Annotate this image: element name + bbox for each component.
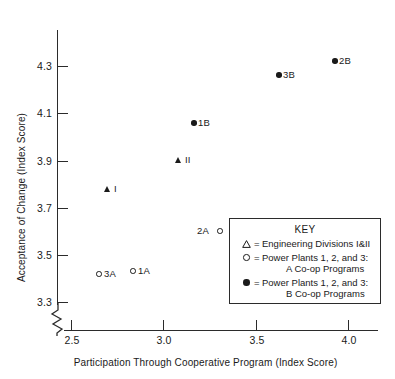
x-tick-label-4.0: 4.0 [334, 334, 364, 346]
x-tick-4.0 [348, 320, 349, 330]
marker-filled-circle [276, 72, 282, 78]
data-point-1A: 1A [130, 268, 136, 274]
filled-circle-icon [239, 277, 254, 288]
marker-open-circle [96, 271, 102, 277]
data-point-1B: 1B [191, 120, 197, 126]
data-point-2B: 2B [332, 58, 338, 64]
key-entry-text: Power Plants 1, 2, and 3: [262, 277, 368, 288]
scatter-chart: 4.3 4.1 3.9 3.7 3.5 3.3 2.5 3.0 3.5 4.0 … [0, 0, 395, 379]
marker-triangle [175, 157, 181, 163]
data-point-label-2B: 2B [339, 55, 351, 66]
x-axis-line [64, 330, 378, 331]
x-tick-label-2.5: 2.5 [57, 334, 87, 346]
data-point-label-1A: 1A [138, 265, 150, 276]
marker-filled-circle [332, 58, 338, 64]
marker-filled-circle [191, 120, 197, 126]
key-entry-text: Engineering Divisions I&II [262, 238, 370, 249]
data-point-label-II: II [185, 154, 190, 165]
key-equals-sign: = [254, 277, 262, 288]
data-point-label-2A: 2A [197, 225, 209, 236]
x-tick-label-3.0: 3.0 [149, 334, 179, 346]
key-entry-a-coop: = Power Plants 1, 2, and 3: [230, 252, 380, 263]
y-tick-label-3.9: 3.9 [26, 155, 52, 167]
axis-break-zigzag [50, 300, 84, 338]
y-tick-3.7 [58, 208, 68, 209]
y-tick-label-3.7: 3.7 [26, 202, 52, 214]
y-tick-3.3 [58, 302, 68, 303]
key-equals-sign: = [254, 238, 262, 249]
marker-triangle [104, 186, 110, 192]
open-circle-icon [239, 252, 254, 263]
y-axis-line [57, 30, 58, 305]
y-tick-label-4.3: 4.3 [26, 60, 52, 72]
key-entry-b-coop: = Power Plants 1, 2, and 3: [230, 277, 380, 288]
y-tick-label-3.3: 3.3 [26, 296, 52, 308]
x-tick-2.5 [71, 320, 72, 330]
data-point-label-I: I [114, 183, 117, 194]
key-legend-box: KEY = Engineering Divisions I&II = Power… [229, 218, 381, 304]
key-entry-engineering-divisions: = Engineering Divisions I&II [230, 238, 380, 249]
key-entry-continuation: A Co-op Programs [230, 263, 380, 274]
data-point-label-1B: 1B [198, 117, 210, 128]
marker-open-circle [217, 228, 223, 234]
x-tick-label-3.5: 3.5 [242, 334, 272, 346]
y-tick-4.3 [58, 66, 68, 67]
key-entry-continuation: B Co-op Programs [230, 288, 380, 299]
data-point-II: II [175, 157, 181, 163]
key-entry-text: Power Plants 1, 2, and 3: [262, 252, 368, 263]
marker-open-circle [130, 268, 136, 274]
x-tick-3.5 [256, 320, 257, 330]
data-point-2A: 2A [217, 228, 223, 234]
data-point-label-3A: 3A [104, 268, 116, 279]
y-axis-title: Acceptance of Change (Index Score) [16, 113, 27, 282]
y-tick-3.9 [58, 161, 68, 162]
key-equals-sign: = [254, 252, 262, 263]
x-tick-3.0 [163, 320, 164, 330]
data-point-3A: 3A [96, 271, 102, 277]
data-point-I: I [104, 186, 110, 192]
y-tick-4.1 [58, 113, 68, 114]
triangle-icon [239, 238, 254, 249]
key-title: KEY [230, 224, 380, 235]
y-tick-label-3.5: 3.5 [26, 249, 52, 261]
y-tick-3.5 [58, 255, 68, 256]
data-point-label-3B: 3B [283, 69, 295, 80]
x-axis-title: Participation Through Cooperative Progra… [8, 357, 395, 368]
data-point-3B: 3B [276, 72, 282, 78]
y-tick-label-4.1: 4.1 [26, 107, 52, 119]
